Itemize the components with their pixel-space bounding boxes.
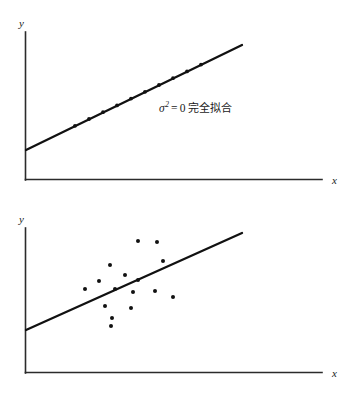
data-point xyxy=(87,117,91,121)
data-point xyxy=(136,278,140,282)
data-point xyxy=(153,289,157,293)
data-point xyxy=(108,263,112,267)
data-point xyxy=(123,273,127,277)
data-point xyxy=(157,83,161,87)
data-point xyxy=(171,76,175,80)
data-point xyxy=(129,97,133,101)
comparison-operator: = xyxy=(171,102,178,114)
data-point xyxy=(103,304,107,308)
x-axis-label: x xyxy=(331,367,337,379)
sigma-value: 0 xyxy=(180,102,186,114)
data-point xyxy=(155,240,159,244)
data-point xyxy=(83,287,87,291)
data-point xyxy=(129,306,133,310)
data-point xyxy=(171,295,175,299)
data-point xyxy=(97,279,101,283)
data-point xyxy=(101,110,105,114)
data-point xyxy=(115,104,119,108)
data-point xyxy=(73,124,77,128)
data-point xyxy=(110,316,114,320)
chart-panel-imperfect-fit: y x σ2>0不完全拟合 xyxy=(0,197,353,395)
data-point xyxy=(199,63,203,67)
regression-line xyxy=(26,233,242,330)
x-axis-label: x xyxy=(331,174,337,186)
regression-line xyxy=(26,45,242,150)
imperfect-fit-plot: y x xyxy=(0,197,353,395)
y-axis-label: y xyxy=(18,213,24,225)
data-point xyxy=(161,259,165,263)
data-point xyxy=(109,324,113,328)
annotation-perfect-fit: σ2=0完全拟合 xyxy=(159,99,233,115)
data-point xyxy=(113,287,117,291)
data-point xyxy=(185,70,189,74)
annotation-text: 完全拟合 xyxy=(188,102,233,115)
sigma-exponent: 2 xyxy=(165,100,169,109)
y-axis-label: y xyxy=(18,17,24,29)
data-point xyxy=(143,90,147,94)
chart-panel-perfect-fit: y x σ2=0完全拟合 xyxy=(0,0,353,198)
data-point xyxy=(131,290,135,294)
data-point xyxy=(136,239,140,243)
